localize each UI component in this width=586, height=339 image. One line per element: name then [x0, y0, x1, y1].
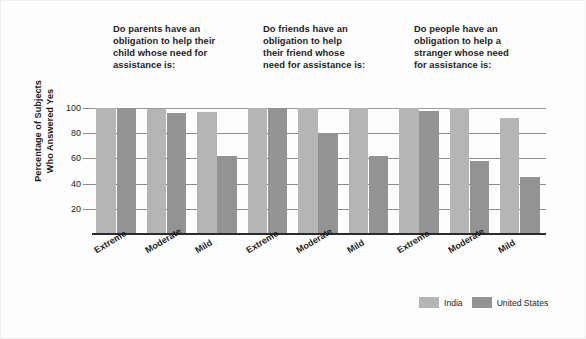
bar	[197, 112, 217, 234]
legend-item-india: India	[419, 297, 463, 308]
y-tick-20	[83, 209, 92, 210]
bar	[96, 108, 116, 234]
legend-label-india: India	[444, 298, 463, 308]
bar	[349, 108, 369, 234]
bar	[268, 108, 288, 234]
bar	[520, 177, 540, 234]
legend-item-united-states: United States	[472, 297, 549, 308]
bar	[500, 118, 520, 234]
bar	[117, 108, 137, 234]
legend-label-united-states: United States	[497, 298, 549, 308]
y-tick-80	[83, 133, 92, 134]
bar	[450, 108, 470, 234]
panel-title-friends: Do friends have an obligation to help th…	[263, 23, 383, 71]
panel-title-strangers: Do people have an obligation to help a s…	[414, 23, 536, 71]
bar	[369, 156, 389, 234]
bar	[217, 156, 237, 234]
bar	[470, 161, 490, 234]
category-label-mild: Mild	[345, 237, 366, 255]
y-tick-label-60: 60	[71, 153, 81, 163]
y-axis-title: Percentage of Subjects Who Answered Yes	[32, 61, 56, 201]
chart-legend: India United States	[419, 297, 548, 308]
y-tick-label-100: 100	[66, 103, 81, 113]
y-tick-40	[83, 184, 92, 185]
bar	[147, 109, 167, 234]
plot-area: 20406080100	[92, 103, 546, 234]
bar	[318, 133, 338, 234]
y-tick-label-20: 20	[71, 204, 81, 214]
y-tick-label-40: 40	[71, 179, 81, 189]
chart-figure: Percentage of Subjects Who Answered Yes …	[0, 0, 586, 339]
bar	[248, 108, 268, 234]
category-label-mild: Mild	[496, 237, 517, 255]
legend-swatch-united-states	[472, 297, 492, 308]
y-tick-100	[83, 108, 92, 109]
panel-title-parents: Do parents have an obligation to help th…	[113, 23, 233, 71]
bar-series-container	[92, 103, 546, 234]
bar	[419, 111, 439, 234]
bar	[399, 108, 419, 234]
category-label-mild: Mild	[194, 237, 215, 255]
y-tick-60	[83, 158, 92, 159]
bar	[167, 113, 187, 234]
legend-swatch-india	[419, 297, 439, 308]
bar	[298, 108, 318, 234]
y-tick-label-80: 80	[71, 128, 81, 138]
